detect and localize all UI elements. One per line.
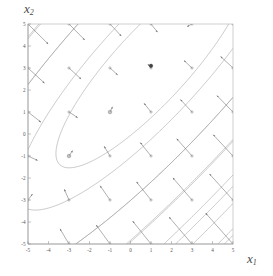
y-axis-label-subscript: 2	[30, 8, 34, 17]
gradient-arrow	[100, 186, 110, 200]
y-tick-label: 0	[23, 131, 26, 137]
y-tick-label: 3	[23, 65, 26, 71]
contour-line	[76, 97, 233, 244]
x-tick-label: -1	[108, 247, 113, 253]
gradient-arrow	[28, 112, 41, 122]
gradient-arrow	[136, 182, 151, 200]
x-tick-label: -3	[67, 247, 72, 253]
contour-line	[164, 175, 233, 244]
contour-line	[28, 48, 233, 210]
gradient-arrow	[96, 225, 110, 244]
contour-line	[128, 141, 233, 244]
y-tick-label: 4	[23, 43, 26, 49]
gradient-arrow	[217, 96, 233, 112]
x-tick-label: 3	[191, 247, 194, 253]
gradient-arrow	[213, 135, 233, 156]
x-tick-label: 5	[232, 247, 235, 253]
contour-line	[56, 24, 229, 168]
gradient-arrow	[110, 68, 118, 75]
contour-line	[193, 203, 233, 244]
x-tick-label: 1	[150, 247, 153, 253]
gradient-arrow	[69, 112, 78, 118]
x-tick-label: -2	[87, 247, 92, 253]
gradient-arrow	[28, 68, 44, 83]
contour-line	[28, 24, 119, 150]
x-axis-ticks: -5-4-3-2-1012345	[26, 241, 235, 253]
maximum-point-marker	[149, 64, 152, 67]
y-tick-label: -1	[21, 153, 26, 159]
contour-line	[28, 24, 78, 85]
gradient-arrow	[169, 217, 192, 244]
gradient-arrow	[177, 139, 192, 156]
axes-group	[28, 24, 233, 244]
gradient-arrow	[151, 24, 158, 32]
y-tick-label: 1	[23, 109, 26, 115]
gradient-arrow	[140, 143, 151, 156]
x-tick-label: 2	[170, 247, 173, 253]
gradient-arrow	[173, 178, 192, 200]
y-tick-label: -4	[21, 219, 26, 225]
gradient-arrow	[60, 229, 69, 244]
gradient-arrow	[180, 100, 192, 112]
gradient-arrow	[64, 189, 69, 200]
x-tick-label: 4	[211, 247, 214, 253]
x-axis-label-subscript: 1	[253, 258, 257, 267]
plot-canvas: -5-4-3-2-1012345 -5-4-3-2-1012345	[0, 0, 273, 276]
x-tick-label: -5	[26, 247, 31, 253]
gradient-arrow	[110, 24, 121, 36]
contour-line	[76, 97, 233, 244]
gradient-arrow	[28, 156, 38, 160]
plot-frame	[28, 24, 233, 244]
y-axis-ticks: -5-4-3-2-1012345	[21, 21, 31, 247]
x-tick-label: 0	[129, 247, 132, 253]
gradient-arrow	[224, 18, 233, 24]
y-tick-label: -2	[21, 175, 26, 181]
y-tick-label: -5	[21, 241, 26, 247]
y-axis-label: x2	[24, 2, 34, 17]
gradient-arrow	[69, 24, 85, 40]
gradient-vectors-group	[24, 18, 234, 245]
y-tick-label: 2	[23, 87, 26, 93]
gradient-arrow	[184, 61, 192, 68]
gradient-arrow	[144, 103, 151, 112]
gradient-arrow	[133, 221, 151, 244]
contour-lines-group	[28, 24, 233, 244]
contour-line	[28, 24, 78, 85]
contour-plot-figure: x2 x1 -5-4-3-2-1012345 -5-4-3-2-1012345	[0, 0, 273, 276]
x-tick-label: -4	[46, 247, 51, 253]
y-tick-label: -3	[21, 197, 26, 203]
x-axis-label: x1	[247, 252, 257, 267]
contour-line	[176, 186, 233, 244]
y-tick-label: 5	[23, 21, 26, 27]
